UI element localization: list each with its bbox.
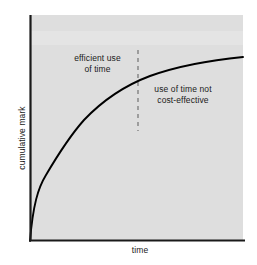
chart-figure: efficient use of time use of time not co… (0, 0, 257, 265)
x-axis-title: time (110, 245, 170, 255)
y-axis-title: cumulative mark (17, 98, 27, 178)
plot-area-background (30, 15, 243, 241)
annotation-not-cost-effective-line-1: use of time not (142, 84, 224, 95)
chart-canvas (0, 0, 257, 265)
annotation-use-of-time-not-cost-effective: use of time not cost-effective (142, 84, 224, 106)
annotation-efficient-line-1: efficient use (60, 53, 135, 64)
annotation-not-cost-effective-line-2: cost-effective (142, 95, 224, 106)
plot-area-scan-band (30, 31, 243, 45)
annotation-efficient-use-of-time: efficient use of time (60, 53, 135, 75)
annotation-efficient-line-2: of time (60, 64, 135, 75)
